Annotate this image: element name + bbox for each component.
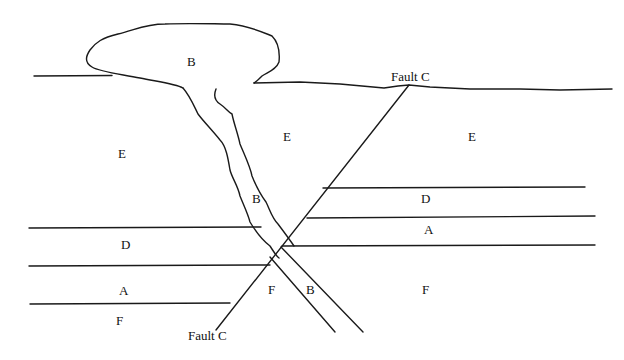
label-layer-f-right: F (422, 282, 429, 297)
label-fault-c-bottom: Fault C (188, 328, 227, 343)
strata-right-top-of-f (282, 245, 595, 246)
label-dike-b-upper: B (252, 191, 261, 206)
strata-left-top-of-f (30, 303, 230, 304)
strata-left-top-of-d (29, 227, 261, 228)
surface-left (34, 76, 112, 77)
label-layer-a-right: A (424, 222, 434, 237)
label-layer-e-right: E (468, 129, 476, 144)
dike-b-lower-left-wall (270, 257, 335, 332)
label-layer-d-left: D (121, 237, 130, 252)
label-layer-e-middle: E (283, 129, 291, 144)
label-dike-b-lower: B (306, 282, 315, 297)
label-fault-c-top: Fault C (391, 69, 430, 84)
strata-right-top-of-d (323, 187, 585, 188)
label-intrusion-b-top: B (187, 54, 196, 69)
label-layer-d-right: D (421, 191, 430, 206)
intrusion-b-outline-left (87, 24, 280, 88)
label-layer-e-left: E (118, 146, 126, 161)
strata-right-top-of-a (307, 216, 595, 218)
strata-left-top-of-a (29, 265, 270, 266)
label-layer-a-left: A (119, 283, 129, 298)
intrusion-b-outline-right-surface (254, 82, 612, 90)
geologic-cross-section: B E E E B D D A A F F B F Fault C Fault … (0, 0, 624, 360)
label-layer-f-middle: F (268, 282, 275, 297)
dike-b-right-wall (215, 89, 294, 246)
dike-b-lower-right-wall (281, 247, 363, 332)
label-layer-f-left: F (116, 313, 123, 328)
